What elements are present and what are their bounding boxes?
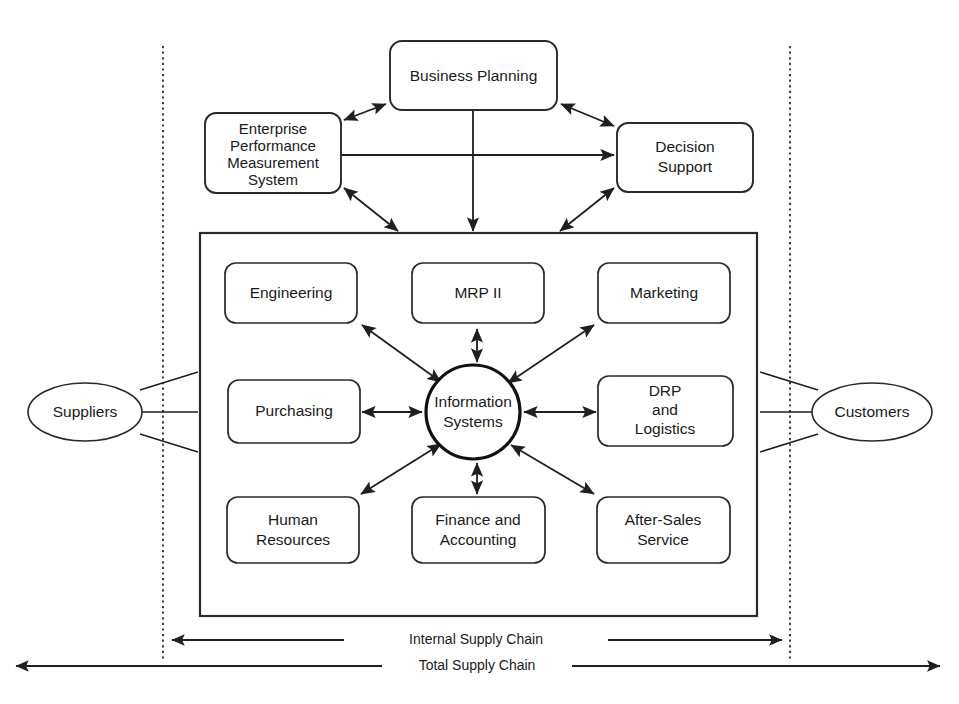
node-purchasing-label: Purchasing xyxy=(255,402,333,419)
node-information-systems-hub[interactable]: Information Systems xyxy=(426,365,520,459)
node-decision-support-label-line2: Support xyxy=(658,158,713,175)
node-marketing[interactable]: Marketing xyxy=(598,263,730,323)
node-mrp-ii[interactable]: MRP II xyxy=(412,263,544,323)
link-decision-support-internal xyxy=(560,188,614,231)
spoke-human-resources xyxy=(361,444,441,494)
link-business-planning-epm xyxy=(344,104,386,120)
node-human-resources-label-line1: Human xyxy=(268,511,318,528)
node-epm-system-label-line2: Performance xyxy=(230,137,316,154)
customer-fan-line-bottom xyxy=(760,434,818,452)
node-customers-label: Customers xyxy=(835,403,910,420)
measure-total-supply-chain: Total Supply Chain xyxy=(16,657,940,673)
customer-fan-line-top xyxy=(760,372,818,390)
node-after-sales-service-label-line2: Service xyxy=(637,531,689,548)
node-drp-and-logistics-label-line2: and xyxy=(652,401,678,418)
node-after-sales-service-label-line1: After-Sales xyxy=(625,511,702,528)
node-human-resources-shape xyxy=(227,497,359,563)
node-engineering[interactable]: Engineering xyxy=(225,263,357,323)
node-finance-and-accounting-label-line2: Accounting xyxy=(440,531,517,548)
node-information-systems-label-line2: Systems xyxy=(443,413,503,430)
node-epm-system[interactable]: Enterprise Performance Measurement Syste… xyxy=(205,113,341,193)
node-epm-system-label-line4: System xyxy=(248,171,298,188)
node-finance-and-accounting-label-line1: Finance and xyxy=(435,511,520,528)
supplier-fan-line-bottom xyxy=(140,434,198,452)
node-business-planning[interactable]: Business Planning xyxy=(390,41,557,110)
link-business-planning-decision-support xyxy=(561,104,614,126)
node-business-planning-label: Business Planning xyxy=(410,67,538,84)
node-after-sales-service[interactable]: After-Sales Service xyxy=(597,497,730,563)
spoke-engineering xyxy=(362,325,441,382)
node-human-resources[interactable]: Human Resources xyxy=(227,497,359,563)
node-drp-and-logistics[interactable]: DRP and Logistics xyxy=(598,376,733,446)
node-epm-system-label-line1: Enterprise xyxy=(239,120,307,137)
node-drp-and-logistics-label-line3: Logistics xyxy=(635,420,696,437)
node-customers[interactable]: Customers xyxy=(812,383,932,441)
node-marketing-label: Marketing xyxy=(630,284,698,301)
supply-chain-diagram: Business Planning Enterprise Performance… xyxy=(0,0,959,704)
supplier-fan-line-top xyxy=(140,372,198,390)
node-decision-support[interactable]: Decision Support xyxy=(617,123,753,192)
node-human-resources-label-line2: Resources xyxy=(256,531,330,548)
node-finance-and-accounting-shape xyxy=(412,497,545,563)
measure-total-label: Total Supply Chain xyxy=(419,657,536,673)
measure-internal-label: Internal Supply Chain xyxy=(409,631,543,647)
node-purchasing[interactable]: Purchasing xyxy=(228,380,360,443)
diagram-canvas: Business Planning Enterprise Performance… xyxy=(0,0,959,704)
spoke-marketing xyxy=(508,325,594,383)
spoke-after-sales-service xyxy=(511,445,594,494)
node-epm-system-label-line3: Measurement xyxy=(227,154,320,171)
node-suppliers-label: Suppliers xyxy=(53,403,118,420)
node-engineering-label: Engineering xyxy=(250,284,333,301)
link-epm-internal xyxy=(344,188,398,231)
node-finance-and-accounting[interactable]: Finance and Accounting xyxy=(412,497,545,563)
node-drp-and-logistics-label-line1: DRP xyxy=(649,382,682,399)
node-information-systems-shape xyxy=(426,365,520,459)
node-mrp-ii-label: MRP II xyxy=(454,284,501,301)
node-information-systems-label-line1: Information xyxy=(434,393,512,410)
node-after-sales-service-shape xyxy=(597,497,730,563)
node-decision-support-label-line1: Decision xyxy=(655,138,714,155)
measure-internal-supply-chain: Internal Supply Chain xyxy=(172,631,782,647)
node-suppliers[interactable]: Suppliers xyxy=(28,383,142,441)
